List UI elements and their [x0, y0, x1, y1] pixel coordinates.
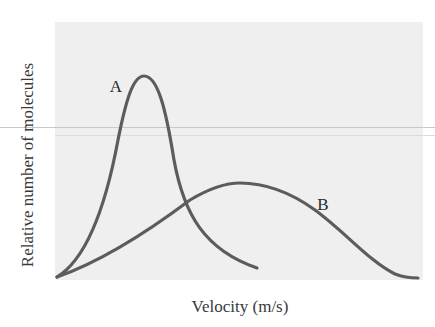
x-axis-label: Velocity (m/s) — [192, 297, 289, 317]
curve-a — [57, 76, 257, 277]
maxwell-boltzmann-distribution-figure: A B Relative number of molecules Velocit… — [0, 0, 435, 327]
series-label-a: A — [110, 77, 122, 97]
curve-b — [57, 183, 418, 278]
curves-canvas — [0, 0, 435, 327]
series-label-b: B — [317, 195, 328, 215]
y-axis-label: Relative number of molecules — [18, 63, 38, 267]
